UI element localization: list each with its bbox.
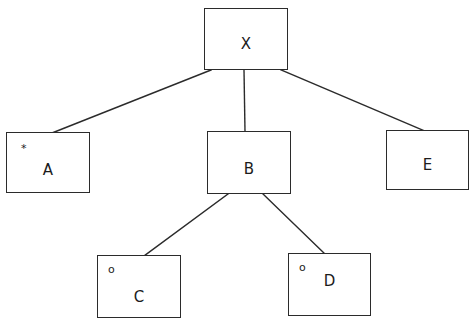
node-label-x: X <box>205 37 287 52</box>
edge-b-d <box>263 194 325 254</box>
node-a[interactable]: *A <box>6 132 90 193</box>
node-c[interactable]: oC <box>97 255 181 318</box>
node-label-b: B <box>208 162 290 177</box>
node-marker-a: * <box>21 143 27 154</box>
edge-b-c <box>144 194 228 256</box>
node-marker-c: o <box>108 264 115 275</box>
node-label-a: A <box>7 163 89 178</box>
node-label-c: C <box>98 290 180 305</box>
node-label-d: D <box>289 274 370 289</box>
node-label-e: E <box>387 158 468 173</box>
node-d[interactable]: oD <box>288 253 371 316</box>
node-x[interactable]: X <box>204 8 288 70</box>
edge-x-e <box>281 70 425 131</box>
node-b[interactable]: B <box>207 131 291 194</box>
edge-x-a <box>52 70 211 133</box>
edge-x-b <box>244 70 245 131</box>
node-e[interactable]: E <box>386 130 469 190</box>
tree-diagram: X*ABEoCoD <box>0 0 476 328</box>
node-marker-d: o <box>299 262 306 273</box>
